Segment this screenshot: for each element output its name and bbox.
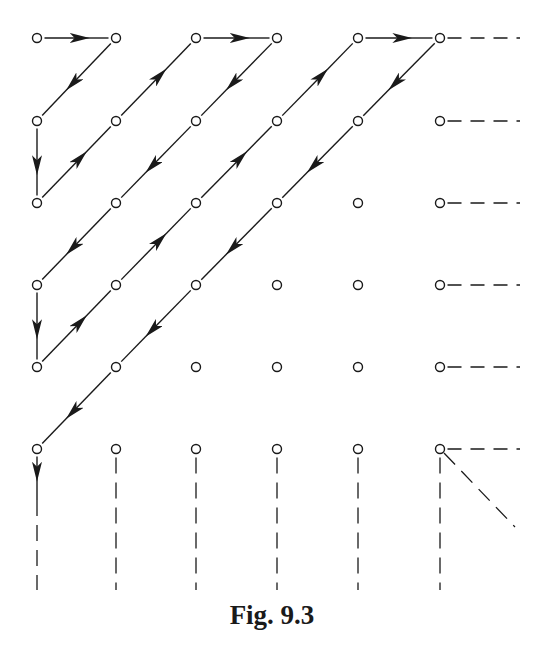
lattice-node: [354, 117, 363, 126]
path-edge: [282, 166, 314, 198]
path-edge: [201, 83, 233, 116]
path-edge: [201, 248, 233, 280]
lattice-node: [273, 199, 282, 208]
lattice-node: [436, 363, 445, 372]
lattice-node: [33, 445, 42, 454]
path-edge: [321, 43, 353, 76]
path-edge-arrow: [73, 208, 111, 247]
lattice-node: [192, 34, 201, 43]
lattice-node: [273, 34, 282, 43]
path-edge-arrow: [395, 43, 434, 83]
path-edge: [80, 126, 111, 158]
path-edge: [42, 248, 73, 280]
lattice-node: [436, 199, 445, 208]
path-edges: [37, 38, 435, 500]
lattice-node: [112, 281, 121, 290]
lattice-node: [436, 117, 445, 126]
lattice-node: [33, 281, 42, 290]
zigzag-lattice-diagram: [0, 0, 544, 600]
lattice-node: [192, 363, 201, 372]
figure-caption: Fig. 9.3: [0, 600, 544, 631]
lattice-node: [273, 117, 282, 126]
lattice-node: [33, 363, 42, 372]
lattice-node: [33, 199, 42, 208]
lattice-node: [192, 199, 201, 208]
path-edge-arrow: [73, 43, 111, 83]
lattice-node: [112, 117, 121, 126]
path-edge-arrow: [282, 76, 321, 116]
lattice-node: [112, 199, 121, 208]
lattice-node: [112, 363, 121, 372]
lattice-node: [354, 281, 363, 290]
path-edge-arrow: [153, 126, 191, 165]
lattice-node: [273, 281, 282, 290]
path-edge: [80, 290, 111, 322]
path-edge-arrow: [314, 126, 353, 165]
path-edge-arrow: [73, 372, 111, 411]
path-edge: [42, 412, 73, 444]
lattice-node: [112, 445, 121, 454]
lattice-node: [33, 34, 42, 43]
path-edge-arrow: [201, 158, 240, 197]
lattice-node: [436, 281, 445, 290]
lattice-node: [354, 363, 363, 372]
path-edge-arrow: [233, 208, 272, 247]
path-edge-arrow: [153, 290, 191, 329]
lattice-node: [192, 445, 201, 454]
path-edge-arrow: [121, 76, 159, 116]
lattice-node: [192, 117, 201, 126]
lattice-node: [354, 199, 363, 208]
path-edge-arrow: [233, 43, 272, 83]
lattice-node: [354, 445, 363, 454]
path-edge: [159, 208, 190, 240]
lattice-node: [33, 117, 42, 126]
path-edge: [363, 83, 395, 116]
lattice-node: [436, 445, 445, 454]
lattice-node: [273, 445, 282, 454]
path-edge-arrow: [42, 322, 80, 361]
lattice-node: [354, 34, 363, 43]
path-edge: [121, 330, 152, 362]
path-edge: [121, 166, 152, 198]
continuation-dash-diagonal: [444, 453, 515, 527]
path-edge-arrow: [121, 240, 159, 279]
path-edge: [159, 43, 190, 75]
lattice-node: [273, 363, 282, 372]
path-edge-arrow: [42, 158, 80, 197]
path-edge: [42, 83, 73, 115]
lattice-node: [192, 281, 201, 290]
lattice-node: [112, 34, 121, 43]
lattice-node: [436, 34, 445, 43]
path-edge: [240, 126, 272, 158]
